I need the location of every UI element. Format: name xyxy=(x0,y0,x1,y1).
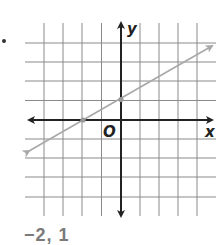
point-y-intercept xyxy=(118,97,123,102)
y-axis-label: y xyxy=(127,20,138,38)
answer-text: −2, 1 xyxy=(24,225,70,245)
origin-label: O xyxy=(103,123,116,141)
axes xyxy=(29,23,212,216)
coordinate-graph: y x O xyxy=(0,0,219,245)
x-axis-label: x xyxy=(204,123,216,141)
point-x-intercept xyxy=(80,117,85,122)
